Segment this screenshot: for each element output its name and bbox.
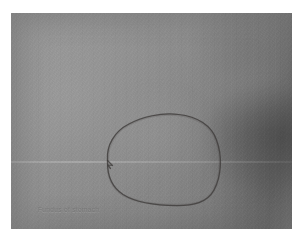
annotation-underlay-stroke — [108, 114, 220, 205]
radiographic-image[interactable]: Fundus of stomach — [11, 13, 292, 229]
region-of-interest-circle-icon — [11, 13, 292, 229]
image-viewer: Fundus of stomach — [0, 0, 305, 242]
watermark-text: Fundus of stomach — [38, 206, 99, 213]
annotation-layer — [11, 13, 292, 229]
